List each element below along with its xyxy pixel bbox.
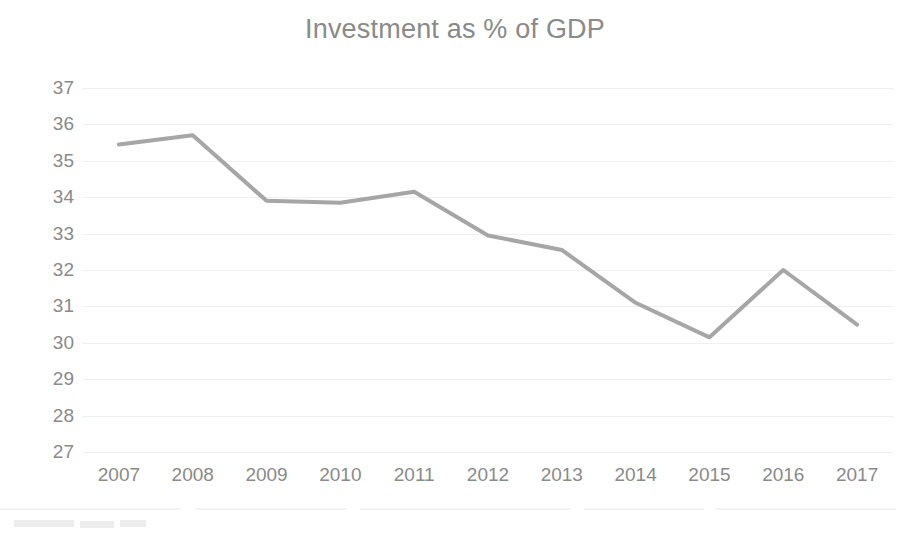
scan-smudge-artifact xyxy=(120,520,146,527)
x-tick-label: 2014 xyxy=(614,464,656,486)
x-tick-label: 2007 xyxy=(98,464,140,486)
series-layer xyxy=(82,88,894,452)
x-tick-label: 2016 xyxy=(762,464,804,486)
y-tick-label: 27 xyxy=(53,441,74,463)
x-tick-label: 2009 xyxy=(245,464,287,486)
x-tick-label: 2015 xyxy=(688,464,730,486)
x-tick-label: 2017 xyxy=(836,464,878,486)
y-tick-label: 31 xyxy=(53,295,74,317)
y-tick-label: 30 xyxy=(53,332,74,354)
scan-line-artifact xyxy=(360,508,570,510)
x-tick-label: 2011 xyxy=(394,464,435,486)
x-tick-label: 2010 xyxy=(319,464,361,486)
y-tick-label: 34 xyxy=(53,186,74,208)
line-series-investment-pct-gdp xyxy=(119,135,857,337)
scan-smudge-artifact xyxy=(14,520,74,527)
y-tick-label: 29 xyxy=(53,368,74,390)
gridline xyxy=(82,452,894,453)
scan-line-artifact xyxy=(716,508,896,510)
y-tick-label: 36 xyxy=(53,113,74,135)
y-axis: 3736353433323130292827 xyxy=(24,88,74,452)
chart-container: Investment as % of GDP 37363534333231302… xyxy=(0,0,910,542)
scan-line-artifact xyxy=(584,508,704,510)
x-tick-label: 2008 xyxy=(172,464,214,486)
x-tick-label: 2012 xyxy=(467,464,509,486)
scan-artifact-footer xyxy=(0,500,910,542)
y-tick-label: 28 xyxy=(53,405,74,427)
y-tick-label: 32 xyxy=(53,259,74,281)
chart-title: Investment as % of GDP xyxy=(0,14,910,45)
x-axis: 2007200820092010201120122013201420152016… xyxy=(82,464,894,494)
y-tick-label: 35 xyxy=(53,150,74,172)
x-tick-label: 2013 xyxy=(541,464,583,486)
y-tick-label: 33 xyxy=(53,223,74,245)
scan-line-artifact xyxy=(196,508,346,510)
y-tick-label: 37 xyxy=(53,77,74,99)
scan-line-artifact xyxy=(0,508,180,510)
scan-smudge-artifact xyxy=(80,521,114,528)
plot-area xyxy=(82,88,894,452)
